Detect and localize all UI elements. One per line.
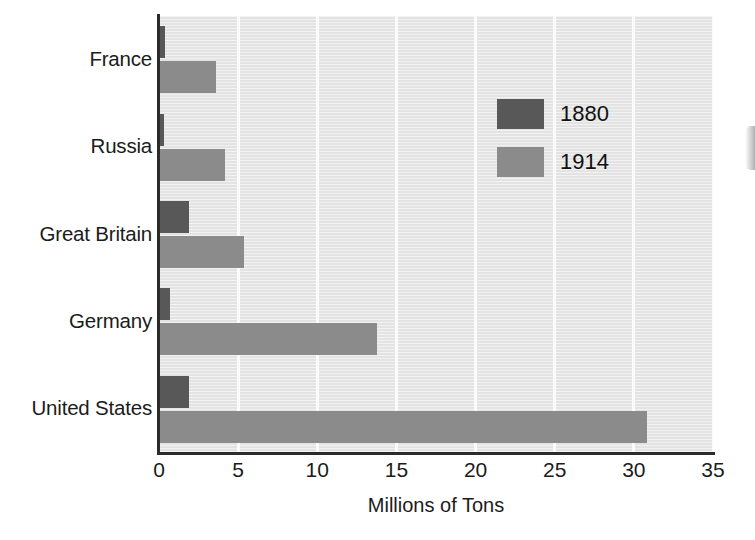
gridline-15 (395, 16, 398, 453)
bar-united-states-1914 (159, 411, 647, 443)
gridline-5 (237, 16, 240, 453)
y-label-great-britain: Great Britain (0, 222, 152, 246)
bar-germany-1914 (159, 323, 377, 355)
x-tick-30: 30 (604, 458, 664, 482)
x-tick-0: 0 (129, 458, 189, 482)
scan-edge-artifact (745, 126, 755, 170)
x-tick-10: 10 (287, 458, 347, 482)
x-tick-5: 5 (208, 458, 268, 482)
x-tick-20: 20 (446, 458, 506, 482)
bar-france-1880 (159, 26, 165, 58)
bar-great-britain-1880 (159, 201, 189, 233)
y-axis-category-labels: FranceRussiaGreat BritainGermanyUnited S… (0, 16, 152, 453)
x-tick-35: 35 (683, 458, 743, 482)
y-label-russia: Russia (0, 134, 152, 158)
bar-russia-1914 (159, 149, 225, 181)
y-label-france: France (0, 47, 152, 71)
gridline-30 (632, 16, 635, 453)
y-label-united-states: United States (0, 396, 152, 420)
bar-chart-figure: FranceRussiaGreat BritainGermanyUnited S… (0, 0, 755, 540)
x-axis-line (157, 452, 715, 455)
legend-label-1880: 1880 (560, 99, 609, 129)
bar-great-britain-1914 (159, 236, 244, 268)
x-tick-15: 15 (366, 458, 426, 482)
bar-united-states-1880 (159, 376, 189, 408)
bar-france-1914 (159, 61, 216, 93)
plot-area (159, 16, 713, 453)
legend-entry-1880: 1880 (497, 99, 647, 137)
x-axis-title: Millions of Tons (159, 494, 713, 517)
gridline-25 (553, 16, 556, 453)
x-tick-25: 25 (525, 458, 585, 482)
x-axis-tick-labels: 05101520253035 (0, 458, 755, 492)
bar-germany-1880 (159, 288, 170, 320)
legend-label-1914: 1914 (560, 147, 609, 177)
legend-entry-1914: 1914 (497, 147, 647, 185)
gridline-35 (712, 16, 714, 453)
y-axis-line (157, 14, 160, 455)
y-label-germany: Germany (0, 309, 152, 333)
legend-swatch-1880-icon (497, 99, 544, 129)
legend-swatch-1914-icon (497, 147, 544, 177)
chart-legend: 1880 1914 (497, 99, 647, 195)
gridline-10 (316, 16, 319, 453)
bar-russia-1880 (159, 114, 164, 146)
gridline-20 (474, 16, 477, 453)
